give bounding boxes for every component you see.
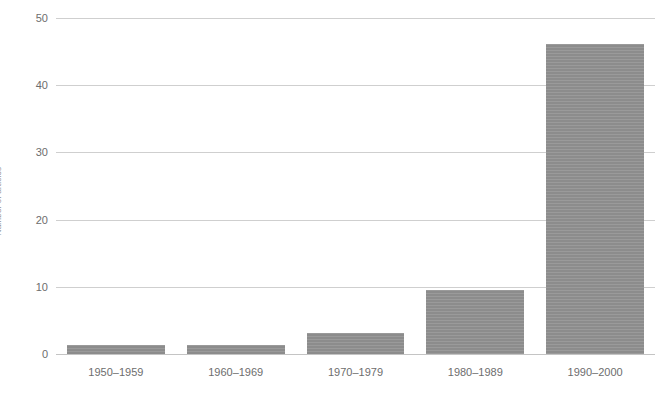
y-axis-tick-labels: 01020304050 [0,18,48,354]
x-category-label: 1960–1969 [208,366,263,378]
x-category-label: 1980–1989 [448,366,503,378]
bar[interactable] [67,345,165,354]
y-tick-label: 10 [4,281,48,293]
y-tick-label: 0 [4,348,48,360]
y-tick-label: 40 [4,79,48,91]
y-tick-label: 30 [4,146,48,158]
x-category-label: 1970–1979 [328,366,383,378]
x-category-label: 1950–1959 [88,366,143,378]
bar[interactable] [426,290,524,355]
gridline [56,354,655,355]
bar[interactable] [187,345,285,354]
y-tick-label: 50 [4,12,48,24]
y-tick-label: 20 [4,214,48,226]
x-category-label: 1990–2000 [568,366,623,378]
bar-series [56,18,655,354]
plot-area [56,18,655,354]
bar-chart: Number of articles 01020304050 1950–1959… [0,0,671,401]
x-axis-category-labels: 1950–19591960–19691970–19791980–19891990… [56,366,655,386]
bar[interactable] [546,44,644,354]
bar[interactable] [307,333,405,355]
